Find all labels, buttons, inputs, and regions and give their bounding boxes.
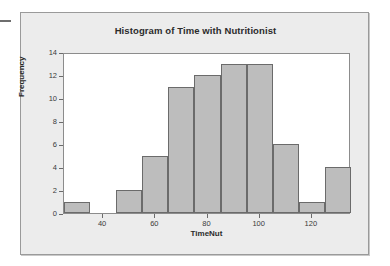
histogram-bars [64, 54, 349, 213]
histogram-bar [273, 144, 299, 213]
histogram-bar [168, 87, 194, 214]
y-tick-label: 10 [49, 94, 57, 103]
y-tick-label: 4 [53, 163, 57, 172]
y-tick-label: 14 [49, 48, 57, 57]
histogram-bar [116, 190, 142, 213]
x-tick-label: 80 [195, 219, 219, 228]
histogram-bar [221, 64, 247, 214]
x-tick-mark [259, 214, 260, 218]
y-tick-label: 0 [53, 209, 57, 218]
histogram-bar [64, 202, 90, 214]
histogram-bar [247, 64, 273, 214]
x-tick-mark [102, 214, 103, 218]
chart-figure-panel: Histogram of Time with Nutritionist Freq… [20, 12, 369, 255]
x-tick-mark [311, 214, 312, 218]
y-axis-title: Frequency [17, 57, 26, 97]
x-tick-mark [207, 214, 208, 218]
y-tick-mark [59, 214, 63, 215]
y-tick-label: 6 [53, 140, 57, 149]
x-tick-label: 120 [299, 219, 323, 228]
screenshot-root: Histogram of Time with Nutritionist Freq… [0, 0, 390, 266]
histogram-bar [142, 156, 168, 214]
x-tick-mark [154, 214, 155, 218]
y-tick-label: 12 [49, 71, 57, 80]
histogram-bar [299, 202, 325, 214]
chart-title: Histogram of Time with Nutritionist [21, 25, 370, 36]
cursor-artifact [0, 20, 11, 22]
histogram-bar [325, 167, 351, 213]
plot-area [63, 53, 350, 214]
y-tick-label: 8 [53, 117, 57, 126]
x-tick-label: 60 [142, 219, 166, 228]
histogram-bar [194, 75, 220, 213]
x-axis-title: TimeNut [63, 229, 350, 238]
x-tick-label: 40 [90, 219, 114, 228]
x-tick-label: 100 [247, 219, 271, 228]
y-tick-label: 2 [53, 186, 57, 195]
